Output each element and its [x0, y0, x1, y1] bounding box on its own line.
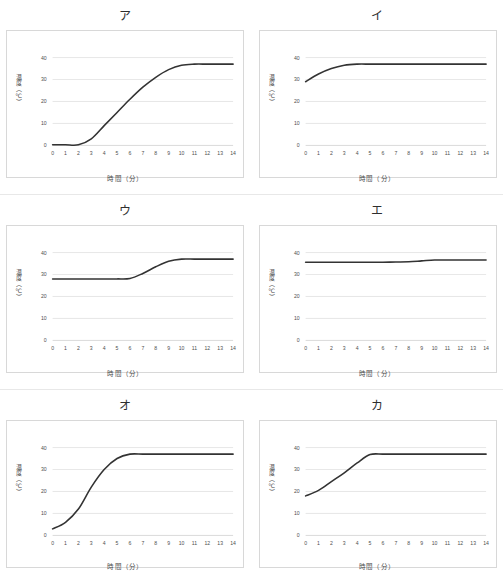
svg-text:13: 13 [217, 150, 223, 156]
svg-text:6: 6 [382, 150, 385, 156]
svg-text:4: 4 [103, 345, 106, 351]
svg-text:6: 6 [382, 540, 385, 546]
svg-text:2: 2 [330, 345, 333, 351]
svg-text:10: 10 [179, 345, 185, 351]
svg-text:40: 40 [41, 250, 47, 256]
svg-text:7: 7 [141, 150, 144, 156]
svg-text:0: 0 [44, 142, 47, 148]
svg-text:40: 40 [41, 445, 47, 451]
svg-text:11: 11 [445, 540, 450, 546]
svg-text:11: 11 [445, 345, 450, 351]
svg-text:30: 30 [294, 467, 300, 473]
svg-text:9: 9 [420, 150, 423, 156]
svg-text:20: 20 [41, 293, 47, 299]
svg-text:14: 14 [230, 150, 236, 156]
plot-f: 01020304001234567891011121314 [260, 421, 496, 567]
svg-text:0: 0 [51, 150, 54, 156]
svg-text:4: 4 [103, 540, 106, 546]
y-axis-label-c: 温度（℃） [9, 257, 21, 311]
svg-text:1: 1 [64, 345, 67, 351]
svg-text:5: 5 [116, 540, 119, 546]
series-line [53, 259, 233, 279]
svg-text:12: 12 [204, 540, 210, 546]
svg-text:30: 30 [294, 77, 300, 83]
series-line [306, 64, 486, 82]
svg-text:13: 13 [470, 150, 476, 156]
svg-text:14: 14 [483, 150, 489, 156]
svg-text:10: 10 [432, 345, 438, 351]
svg-text:8: 8 [154, 540, 157, 546]
svg-text:0: 0 [304, 150, 307, 156]
y-axis-label-d: 温度（℃） [262, 257, 274, 311]
svg-text:12: 12 [457, 540, 463, 546]
x-axis-label-b: 時間（分） [251, 173, 503, 183]
svg-text:10: 10 [179, 150, 185, 156]
svg-text:1: 1 [64, 150, 67, 156]
series-line [306, 454, 486, 496]
plot-frame-c: 01020304001234567891011121314 [6, 225, 244, 373]
svg-text:40: 40 [294, 445, 300, 451]
svg-text:14: 14 [483, 540, 489, 546]
svg-text:14: 14 [230, 345, 236, 351]
svg-text:1: 1 [317, 345, 320, 351]
svg-text:2: 2 [330, 540, 333, 546]
svg-text:10: 10 [179, 540, 185, 546]
svg-text:11: 11 [192, 150, 197, 156]
svg-text:0: 0 [297, 142, 300, 148]
svg-text:3: 3 [90, 150, 93, 156]
svg-text:13: 13 [217, 345, 223, 351]
x-axis-label-a: 時間（分） [0, 173, 251, 183]
series-line [306, 260, 486, 262]
plot-b: 01020304001234567891011121314 [260, 31, 496, 177]
section-divider-1 [0, 194, 503, 195]
svg-text:12: 12 [457, 150, 463, 156]
svg-text:4: 4 [356, 150, 359, 156]
svg-text:5: 5 [369, 345, 372, 351]
y-axis-label-f: 温度（℃） [262, 452, 274, 506]
svg-text:5: 5 [116, 345, 119, 351]
plot-c: 01020304001234567891011121314 [7, 226, 243, 372]
x-axis-label-c: 時間（分） [0, 368, 251, 378]
svg-text:30: 30 [41, 77, 47, 83]
svg-text:20: 20 [294, 488, 300, 494]
svg-text:2: 2 [330, 150, 333, 156]
svg-text:1: 1 [64, 540, 67, 546]
y-axis-label-a: 温度（℃） [9, 62, 21, 116]
svg-text:12: 12 [204, 150, 210, 156]
svg-text:20: 20 [294, 293, 300, 299]
svg-text:10: 10 [41, 315, 47, 321]
plot-frame-e: 01020304001234567891011121314 [6, 420, 244, 568]
plot-frame-d: 01020304001234567891011121314 [259, 225, 497, 373]
svg-text:30: 30 [41, 467, 47, 473]
svg-text:3: 3 [343, 150, 346, 156]
svg-text:8: 8 [407, 150, 410, 156]
svg-text:6: 6 [129, 540, 132, 546]
svg-text:7: 7 [141, 540, 144, 546]
svg-text:10: 10 [294, 315, 300, 321]
chart-panel-e: オ 01020304001234567891011121314 温度（℃） 時間… [0, 390, 251, 583]
series-line [53, 64, 233, 145]
svg-text:13: 13 [470, 540, 476, 546]
chart-panel-c: ウ 01020304001234567891011121314 温度（℃） 時間… [0, 195, 251, 390]
svg-text:14: 14 [483, 345, 489, 351]
svg-text:5: 5 [116, 150, 119, 156]
svg-text:30: 30 [41, 272, 47, 278]
svg-text:4: 4 [356, 540, 359, 546]
svg-text:6: 6 [382, 345, 385, 351]
svg-text:12: 12 [457, 345, 463, 351]
plot-e: 01020304001234567891011121314 [7, 421, 243, 567]
svg-text:2: 2 [77, 345, 80, 351]
svg-text:3: 3 [90, 345, 93, 351]
svg-text:7: 7 [141, 345, 144, 351]
svg-text:6: 6 [129, 345, 132, 351]
svg-text:20: 20 [41, 488, 47, 494]
svg-text:40: 40 [294, 250, 300, 256]
svg-text:3: 3 [343, 345, 346, 351]
svg-text:9: 9 [167, 345, 170, 351]
svg-text:8: 8 [407, 345, 410, 351]
svg-text:0: 0 [51, 540, 54, 546]
chart-panel-d: エ 01020304001234567891011121314 温度（℃） 時間… [251, 195, 503, 390]
svg-text:5: 5 [369, 540, 372, 546]
chart-panel-f: カ 01020304001234567891011121314 温度（℃） 時間… [251, 390, 503, 583]
plot-a: 01020304001234567891011121314 [7, 31, 243, 177]
